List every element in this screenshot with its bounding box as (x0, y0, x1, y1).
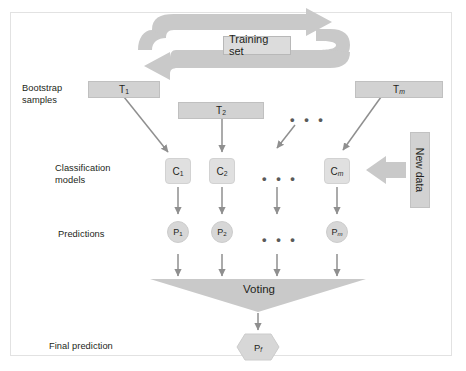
row-label-predictions: Predictions (58, 229, 153, 241)
ellipsis-samples-row: • • • (290, 113, 326, 126)
prediction-m-text: Pm (331, 227, 342, 237)
classification-model-2-text: C2 (216, 166, 227, 177)
training-set-label: Training set (223, 36, 291, 55)
voting-label: Voting (228, 283, 290, 295)
bootstrap-sample-box-2: T2 (178, 102, 264, 119)
bootstrap-sample-1-text: T1 (119, 84, 129, 95)
bootstrap-sample-2-text: T2 (216, 105, 226, 116)
prediction-circle-1: P1 (167, 221, 189, 243)
ellipsis-predictions-row: • • • (262, 233, 298, 246)
arrow-ellipsis-to-models (277, 125, 295, 148)
arrow-tm-to-cm (343, 97, 381, 150)
bootstrap-sample-m-text: Tm (393, 84, 405, 95)
classification-model-box-1: C1 (165, 158, 191, 184)
classification-model-m-text: Cm (331, 166, 344, 177)
prediction-circle-2: P2 (211, 221, 233, 243)
row-label-final-prediction: Final prediction (49, 341, 159, 353)
final-prediction-text: Pf (254, 342, 262, 353)
prediction-2-text: P2 (217, 227, 226, 237)
final-prediction-node: Pf (237, 338, 279, 356)
new-data-label: New data (414, 148, 426, 192)
new-data-block-arrow (366, 156, 406, 184)
diagram-canvas: Bootstrap samples Classification models … (0, 0, 466, 371)
new-data-box: New data (410, 132, 430, 208)
ellipsis-models-row: • • • (262, 172, 298, 185)
arrow-t1-to-c1 (124, 97, 168, 152)
classification-model-1-text: C1 (172, 166, 183, 177)
prediction-circle-m: Pm (326, 221, 348, 243)
classification-model-box-2: C2 (209, 158, 235, 184)
bootstrap-sample-box-m: Tm (355, 81, 443, 98)
classification-model-box-m: Cm (324, 158, 350, 184)
bootstrap-sample-box-1: T1 (88, 81, 160, 98)
row-label-classification-models: Classification models (55, 163, 150, 186)
prediction-1-text: P1 (173, 227, 182, 237)
